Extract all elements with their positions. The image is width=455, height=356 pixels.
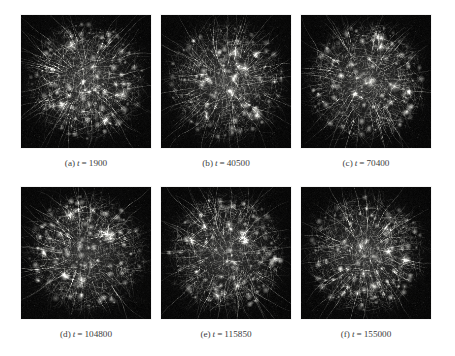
figure-cell-a: (a)t=1900 [20,14,152,170]
simulation-canvas-b [161,15,291,148]
caption-b: (b)t=40500 [160,157,292,170]
caption-c: (c)t=70400 [300,157,432,170]
simulation-image-f [300,186,432,320]
caption-label-d: (d) [60,329,71,339]
caption-value-a: 1900 [89,158,107,168]
simulation-image-d [20,186,152,320]
caption-label-f: (f) [341,329,350,339]
figure-cell-e: (e)t=115850 [160,186,292,341]
caption-variable-a: t [75,158,80,168]
caption-equals-b: = [218,158,227,168]
caption-equals-f: = [355,329,364,339]
caption-a: (a)t=1900 [20,157,152,170]
simulation-canvas-c [301,15,431,148]
caption-label-b: (b) [202,158,213,168]
simulation-canvas-a [21,15,151,148]
caption-value-b: 40500 [227,158,250,168]
simulation-canvas-e [161,187,291,319]
caption-label-a: (a) [65,158,75,168]
caption-d: (d)t=104800 [20,328,152,341]
simulation-image-c [300,14,432,149]
caption-label-c: (c) [343,158,353,168]
caption-value-d: 104800 [84,329,112,339]
caption-value-f: 155000 [364,329,392,339]
figure-cell-f: (f)t=155000 [300,186,432,341]
simulation-canvas-f [301,187,431,319]
caption-value-c: 70400 [366,158,389,168]
caption-variable-f: t [350,329,355,339]
simulation-image-a [20,14,152,149]
figure-cell-d: (d)t=104800 [20,186,152,341]
figure-panel-grid: (a)t=1900 (b)t=40500 (c)t=70400 [0,0,455,356]
caption-value-e: 115850 [224,329,251,339]
caption-e: (e)t=115850 [160,328,292,341]
caption-label-e: (e) [200,329,210,339]
figure-cell-c: (c)t=70400 [300,14,432,170]
figure-cell-b: (b)t=40500 [160,14,292,170]
caption-equals-a: = [80,158,89,168]
simulation-canvas-d [21,187,151,319]
caption-equals-e: = [215,329,224,339]
caption-variable-b: t [213,158,218,168]
simulation-image-e [160,186,292,320]
caption-f: (f)t=155000 [300,328,432,341]
simulation-image-b [160,14,292,149]
